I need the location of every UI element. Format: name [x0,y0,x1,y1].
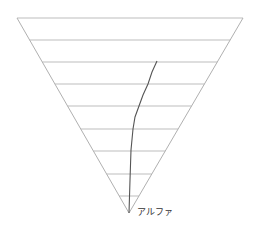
funnel-diagram [0,0,253,225]
tip-label: アルファ [137,205,173,218]
